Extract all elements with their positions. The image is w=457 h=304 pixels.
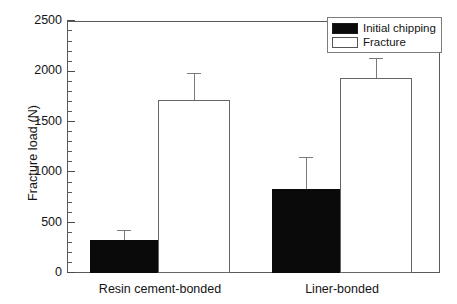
error-bar [299,157,313,189]
y-axis-major-tick [67,171,75,172]
y-axis-minor-tick [67,51,72,52]
error-bar-stem [124,230,125,240]
legend-swatch-icon-fracture [332,37,358,48]
legend: Initial chipping Fracture [327,17,442,53]
legend-label-fracture: Fracture [363,36,406,48]
y-axis-minor-tick [67,192,72,193]
y-axis-minor-tick [67,161,72,162]
y-axis-tick-label: 1000 [14,164,62,178]
y-axis-major-tick [67,272,75,273]
error-bar-stem [306,157,307,189]
y-axis-major-tick [67,222,75,223]
y-axis-minor-tick [67,232,72,233]
y-axis-minor-tick [67,131,72,132]
y-axis-tick-label: 1500 [14,114,62,128]
bar [340,78,412,273]
y-axis-minor-tick [67,91,72,92]
y-axis-major-tick [67,71,75,72]
y-axis-tick-label: 500 [14,215,62,229]
error-bar-cap [369,58,383,59]
legend-swatch-icon-initial-chipping [332,23,358,34]
y-axis-major-tick [67,121,75,122]
bar [272,189,340,273]
error-bar-stem [376,58,377,78]
y-axis-major-tick [67,20,75,21]
error-bar [187,73,201,100]
y-axis-minor-tick [67,101,72,102]
y-axis-tick-label: 0 [14,265,62,279]
error-bar-cap [117,230,131,231]
y-axis-minor-tick [67,242,72,243]
y-axis-tick-labels: 05001000150020002500 [6,0,62,304]
y-axis-minor-tick [67,61,72,62]
bar [90,240,158,273]
y-axis-minor-tick [67,202,72,203]
y-axis-minor-tick [67,141,72,142]
legend-item-fracture: Fracture [332,35,436,49]
legend-label-initial-chipping: Initial chipping [363,22,436,34]
y-axis-minor-tick [67,111,72,112]
y-axis-minor-tick [67,252,72,253]
bar [158,100,230,273]
y-axis-minor-tick [67,81,72,82]
y-axis-tick-label: 2000 [14,63,62,77]
y-axis-minor-tick [67,212,72,213]
y-axis-tick-label: 2500 [14,13,62,27]
error-bar-cap [299,157,313,158]
legend-item-initial-chipping: Initial chipping [332,21,436,35]
error-bar-cap [187,73,201,74]
y-axis-minor-tick [67,182,72,183]
x-axis-tick-label: Resin cement-bonded [99,282,221,296]
y-axis-minor-tick [67,151,72,152]
x-axis-tick-label: Liner-bonded [305,282,379,296]
y-axis-minor-tick [67,262,72,263]
error-bar-stem [194,73,195,100]
error-bar [369,58,383,78]
error-bar [117,230,131,240]
y-axis-minor-tick [67,30,72,31]
y-axis-minor-tick [67,41,72,42]
fracture-load-bar-chart: Fracture load (N) 05001000150020002500 R… [0,0,457,304]
